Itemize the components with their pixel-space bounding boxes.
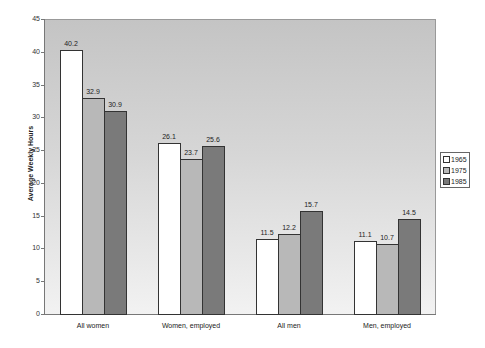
y-tick-mark <box>41 248 44 249</box>
y-tick-mark <box>41 281 44 282</box>
bar-1975 <box>180 159 203 315</box>
legend-label: 1965 <box>451 156 467 163</box>
y-tick-mark <box>41 19 44 20</box>
legend-label: 1975 <box>451 167 467 174</box>
y-tick-label: 40 <box>20 48 40 55</box>
legend-swatch-icon <box>443 178 450 185</box>
y-tick-label: 10 <box>20 244 40 251</box>
data-label: 25.6 <box>198 136 228 143</box>
bar-1985 <box>202 146 225 315</box>
bar-1975 <box>376 244 399 315</box>
legend-item-1985: 1985 <box>443 178 467 185</box>
legend-swatch-icon <box>443 156 450 163</box>
y-tick-mark <box>41 314 44 315</box>
bar-1965 <box>158 143 181 315</box>
bar-1985 <box>104 111 127 315</box>
legend-label: 1985 <box>451 178 467 185</box>
y-tick-mark <box>41 117 44 118</box>
data-label: 32.9 <box>78 88 108 95</box>
data-label: 30.9 <box>100 101 130 108</box>
y-tick-label: 0 <box>20 310 40 317</box>
y-tick-label: 5 <box>20 277 40 284</box>
x-tick-label: Women, employed <box>142 322 240 329</box>
bar-1975 <box>82 98 105 315</box>
legend-item-1975: 1975 <box>443 167 467 174</box>
x-tick-label: All men <box>240 322 338 329</box>
y-tick-mark <box>41 183 44 184</box>
y-axis-label: Average Weekly Hours <box>27 94 34 234</box>
y-tick-mark <box>41 150 44 151</box>
bar-1985 <box>398 219 421 315</box>
y-tick-label: 35 <box>20 81 40 88</box>
y-tick-mark <box>41 52 44 53</box>
y-axis <box>44 19 45 314</box>
legend-item-1965: 1965 <box>443 156 467 163</box>
x-tick-label: Men, employed <box>338 322 436 329</box>
y-tick-mark <box>41 216 44 217</box>
bar-1985 <box>300 211 323 315</box>
bar-1965 <box>354 241 377 315</box>
y-tick-mark <box>41 85 44 86</box>
data-label: 26.1 <box>154 133 184 140</box>
bar-1975 <box>278 234 301 315</box>
data-label: 40.2 <box>56 40 86 47</box>
data-label: 15.7 <box>296 201 326 208</box>
y-tick-label: 45 <box>20 15 40 22</box>
x-tick-label: All women <box>44 322 142 329</box>
data-label: 14.5 <box>394 209 424 216</box>
legend: 196519751985 <box>440 152 470 188</box>
legend-swatch-icon <box>443 167 450 174</box>
bar-1965 <box>256 239 279 315</box>
bar-chart: 051015202530354045 Average Weekly Hours … <box>0 0 485 348</box>
